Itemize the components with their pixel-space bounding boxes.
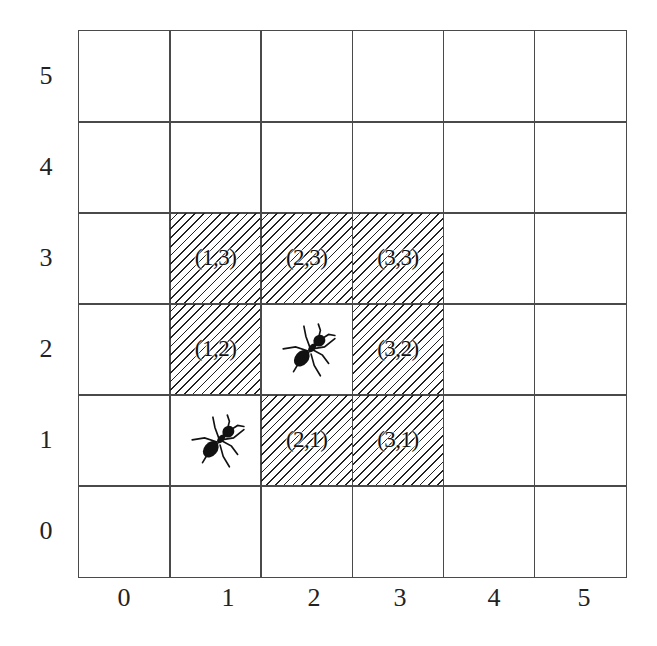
grid-cell-0-3 [78, 212, 171, 305]
hatched-cell-2-1: (2,1) [260, 394, 353, 487]
cell-coordinate-label: (1,2) [195, 336, 237, 362]
hatched-cell-3-1: (3,1) [352, 394, 445, 487]
grid-cell-5-0 [534, 485, 627, 578]
grid-cell-1-0 [169, 485, 262, 578]
x-axis-label: 4 [474, 583, 514, 613]
cell-coordinate-label: (2,3) [286, 245, 328, 271]
x-axis-label: 3 [380, 583, 420, 613]
cell-coordinate-label: (3,1) [377, 427, 419, 453]
hatched-cell-1-3: (1,3) [169, 212, 262, 305]
grid-cell-4-4 [443, 121, 536, 214]
hatched-cell-1-2: (1,2) [169, 303, 262, 396]
grid-cell-3-4 [352, 121, 445, 214]
x-axis-label: 0 [104, 583, 144, 613]
grid-cell-1-5 [169, 30, 262, 123]
y-axis-label: 2 [26, 334, 66, 364]
grid-cell-0-2 [78, 303, 171, 396]
y-axis-label: 0 [26, 516, 66, 546]
grid-cell-4-5 [443, 30, 536, 123]
grid-cell-1-4 [169, 121, 262, 214]
cell-coordinate-label: (1,3) [195, 245, 237, 271]
y-axis-label: 3 [26, 243, 66, 273]
grid-board: (1,3)(2,3)(3,3)(1,2)(3,2)(2,1)(3,1) [78, 30, 625, 576]
grid-cell-4-2 [443, 303, 536, 396]
cell-coordinate-label: (2,1) [286, 427, 328, 453]
grid-cell-5-5 [534, 30, 627, 123]
grid-cell-2-5 [260, 30, 353, 123]
cell-coordinate-label: (3,2) [377, 336, 419, 362]
y-axis-label: 4 [26, 152, 66, 182]
grid-cell-2-4 [260, 121, 353, 214]
x-axis-label: 2 [294, 583, 334, 613]
hatched-cell-3-2: (3,2) [352, 303, 445, 396]
x-axis-label: 5 [564, 583, 604, 613]
ant-icon [186, 411, 248, 473]
hatched-cell-3-3: (3,3) [352, 212, 445, 305]
grid-cell-5-3 [534, 212, 627, 305]
hatched-cell-2-3: (2,3) [260, 212, 353, 305]
grid-cell-0-5 [78, 30, 171, 123]
y-axis-label: 1 [26, 425, 66, 455]
grid-cell-5-1 [534, 394, 627, 487]
grid-cell-5-4 [534, 121, 627, 214]
grid-cell-3-5 [352, 30, 445, 123]
cell-coordinate-label: (3,3) [377, 245, 419, 271]
grid-cell-0-1 [78, 394, 171, 487]
ant-icon [277, 320, 339, 382]
grid-cell-4-1 [443, 394, 536, 487]
grid-cell-0-0 [78, 485, 171, 578]
grid-cell-0-4 [78, 121, 171, 214]
y-axis-label: 5 [26, 61, 66, 91]
x-axis-label: 1 [208, 583, 248, 613]
grid-cell-4-3 [443, 212, 536, 305]
grid-cell-2-0 [260, 485, 353, 578]
grid-cell-4-0 [443, 485, 536, 578]
grid-cell-5-2 [534, 303, 627, 396]
grid-cell-3-0 [352, 485, 445, 578]
